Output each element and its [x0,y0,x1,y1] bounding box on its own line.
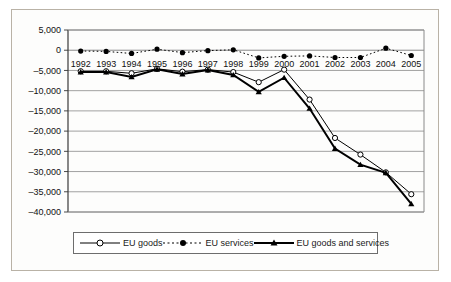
x-tick-label: 2003 [350,59,370,69]
legend-marker-filled-triangle-icon [254,238,294,248]
data-point-marker [180,50,185,55]
data-point-marker [78,48,83,53]
series-line [81,69,412,204]
data-point-marker [332,135,337,140]
legend-marker-open-circle-icon [80,238,120,248]
plot-area: 5,0000–5,000–10,000–15,000–20,000–25,000… [22,18,428,224]
data-point-marker [231,47,236,52]
x-tick-label: 1998 [223,59,243,69]
legend-item-eu-goods-and-services[interactable]: EU goods and services [254,238,390,248]
data-point-marker [154,47,159,52]
data-point-marker [307,97,312,102]
x-tick-label: 2001 [300,59,320,69]
x-tick-label: 1992 [71,59,91,69]
y-tick-label: 5,000 [38,25,61,35]
y-tick-label: –10,000 [28,86,61,96]
data-point-marker [383,46,388,51]
data-point-marker [256,80,261,85]
y-tick-label: 0 [56,45,61,55]
y-tick-label: –35,000 [28,187,61,197]
y-tick-label: –20,000 [28,126,61,136]
data-point-marker [282,67,287,72]
x-tick-label: 2004 [376,59,396,69]
chart-legend: EU goods EU services EU goods and servic… [73,232,378,254]
data-point-marker [307,53,312,58]
x-tick-label: 1996 [172,59,192,69]
y-tick-label: –30,000 [28,167,61,177]
legend-label-eu-goods: EU goods [123,239,163,248]
data-point-marker [281,75,287,80]
x-tick-label: 2002 [325,59,345,69]
legend-item-eu-services[interactable]: EU services [163,238,254,248]
chart-figure: 5,0000–5,000–10,000–15,000–20,000–25,000… [0,0,451,282]
legend-label-eu-goods-and-services: EU goods and services [297,239,390,248]
legend-label-eu-services: EU services [206,239,254,248]
data-point-marker [358,152,363,157]
x-tick-label: 1993 [96,59,116,69]
legend-marker-filled-circle-icon [163,238,203,248]
x-tick-label: 1999 [249,59,269,69]
y-tick-label: –25,000 [28,147,61,157]
data-point-marker [332,55,337,60]
data-point-marker [129,51,134,56]
data-point-marker [409,53,414,58]
legend-item-eu-goods[interactable]: EU goods [80,238,163,248]
x-tick-label: 1994 [122,59,142,69]
data-point-marker [409,192,414,197]
y-tick-label: –40,000 [28,207,61,217]
y-tick-label: –5,000 [33,66,61,76]
data-point-marker [358,55,363,60]
x-tick-label: 2005 [401,59,421,69]
data-point-marker [282,54,287,59]
y-tick-label: –15,000 [28,106,61,116]
data-point-marker [104,49,109,54]
data-point-marker [205,48,210,53]
line-chart-svg: 5,0000–5,000–10,000–15,000–20,000–25,000… [22,18,428,224]
data-point-marker [256,55,261,60]
